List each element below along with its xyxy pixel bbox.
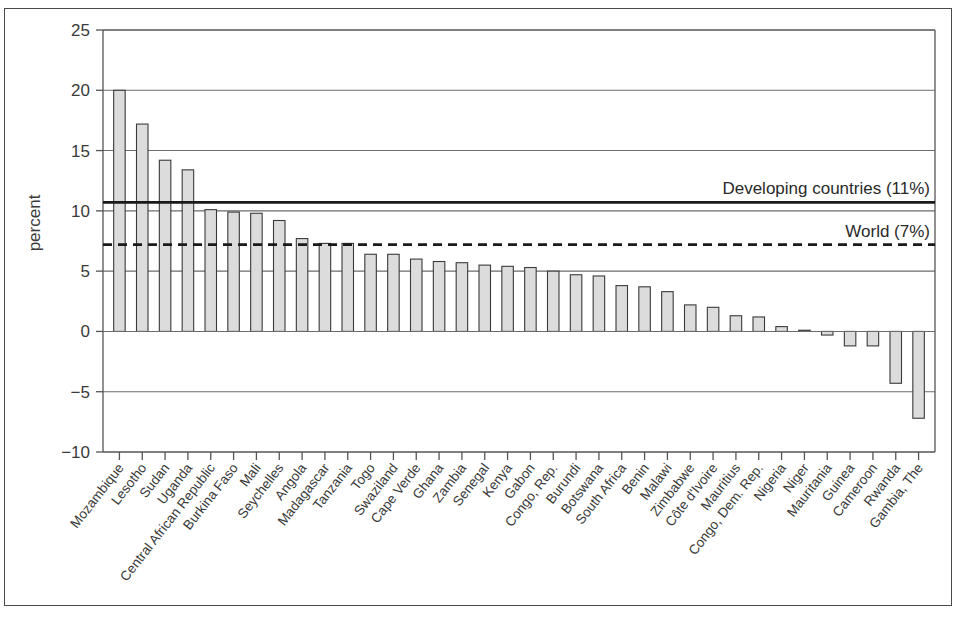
figure-container: 2520151050−5−10percentDeveloping countri…	[0, 0, 960, 625]
y-tick-label: 0	[81, 322, 90, 341]
bar	[913, 331, 925, 418]
bar	[867, 331, 879, 345]
bar	[548, 271, 560, 331]
y-tick-label: 5	[81, 262, 90, 281]
y-tick-label: 20	[71, 81, 90, 100]
y-axis: 2520151050−5−10	[61, 21, 103, 462]
y-tick-label: 25	[71, 21, 90, 40]
bar	[639, 287, 651, 332]
bar	[274, 221, 286, 332]
bar	[707, 307, 719, 331]
bar	[730, 316, 742, 332]
bar	[433, 262, 445, 332]
bar	[593, 276, 605, 331]
bar	[251, 213, 262, 331]
bar	[388, 254, 400, 331]
bar	[456, 263, 468, 332]
reference-label-world: World (7%)	[845, 222, 930, 241]
bar	[182, 170, 194, 332]
y-tick-label: 15	[71, 142, 90, 161]
bar	[776, 327, 788, 332]
y-tick-label: −5	[71, 383, 90, 402]
bar	[570, 275, 582, 332]
y-axis-title: percent	[25, 194, 44, 251]
reference-label-developing-countries: Developing countries (11%)	[722, 179, 930, 198]
bar	[479, 265, 491, 331]
y-tick-label: 10	[71, 202, 90, 221]
x-axis: MozambiqueLesothoSudanUgandaCentral Afri…	[67, 452, 926, 584]
bar	[844, 331, 856, 345]
bars	[114, 90, 925, 418]
bar	[411, 259, 423, 331]
bar	[616, 286, 628, 332]
bar	[525, 268, 537, 332]
bar	[685, 305, 697, 332]
bar	[342, 243, 354, 331]
bar-chart: 2520151050−5−10percentDeveloping countri…	[0, 0, 960, 625]
bar	[662, 292, 674, 332]
bar	[502, 266, 513, 331]
bar	[137, 124, 149, 331]
bar	[753, 317, 765, 331]
bar	[296, 239, 308, 332]
bar	[319, 243, 331, 331]
y-tick-label: −10	[61, 443, 90, 462]
bar	[228, 212, 240, 331]
bar	[114, 90, 126, 331]
bar	[890, 331, 902, 383]
bar	[205, 210, 217, 332]
bar	[365, 254, 377, 331]
